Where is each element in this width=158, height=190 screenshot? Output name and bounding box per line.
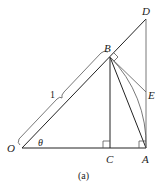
right-angle-C xyxy=(103,141,110,148)
figure-caption: (a) xyxy=(78,170,89,182)
label-E: E xyxy=(147,89,155,101)
label-O: O xyxy=(7,142,15,154)
label-D: D xyxy=(141,5,150,17)
segment-OD xyxy=(22,19,146,148)
label-A: A xyxy=(141,153,149,165)
label-theta: θ xyxy=(38,137,43,148)
trig-diagram: D B E O C A 1 θ (a) xyxy=(0,0,158,190)
brace-OB xyxy=(18,51,108,145)
segment-BA xyxy=(110,57,146,148)
right-angle-B xyxy=(114,53,118,61)
label-length-OB: 1 xyxy=(50,89,55,100)
label-B: B xyxy=(104,42,111,54)
label-C: C xyxy=(106,153,114,165)
